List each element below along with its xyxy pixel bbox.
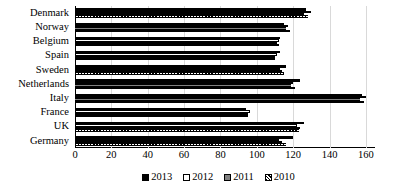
category-label: Netherlands [0, 77, 72, 91]
bar [75, 115, 248, 117]
bar-group [75, 120, 375, 134]
legend-label: 2012 [192, 172, 213, 183]
category-label: Spain [0, 49, 72, 63]
bar [75, 72, 284, 74]
x-tick-label: 40 [142, 150, 153, 161]
legend-swatch-icon [183, 174, 190, 181]
bar [75, 30, 290, 32]
category-label: France [0, 105, 72, 119]
x-tick-label: 80 [215, 150, 226, 161]
x-tick-label: 100 [249, 150, 265, 161]
category-label: Germany [0, 134, 72, 148]
legend-swatch-icon [142, 174, 149, 181]
legend-item[interactable]: 2012 [183, 172, 213, 183]
bar-groups [75, 6, 375, 148]
bar [75, 87, 295, 89]
bar-group [75, 77, 375, 91]
bar-group [75, 34, 375, 48]
bar-group [75, 91, 375, 105]
bar [75, 129, 299, 131]
x-tick-label: 120 [285, 150, 301, 161]
plot-area [75, 6, 375, 148]
legend-item[interactable]: 2011 [224, 172, 254, 183]
legend-item[interactable]: 2013 [142, 172, 172, 183]
legend-label: 2011 [233, 172, 254, 183]
bar-group [75, 63, 375, 77]
legend-label: 2010 [274, 172, 295, 183]
legend-item[interactable]: 2010 [265, 172, 295, 183]
bar [75, 44, 279, 46]
category-label: Belgium [0, 34, 72, 48]
category-label: Italy [0, 91, 72, 105]
bar-group [75, 6, 375, 20]
category-label: Denmark [0, 6, 72, 20]
y-axis-category-labels: DenmarkNorwayBelgiumSpainSwedenNetherlan… [0, 6, 72, 148]
bar-group [75, 105, 375, 119]
legend-label: 2013 [151, 172, 172, 183]
category-label: UK [0, 120, 72, 134]
x-tick-label: 160 [358, 150, 374, 161]
category-label: Sweden [0, 63, 72, 77]
legend-swatch-icon [265, 174, 272, 181]
legend-swatch-icon [224, 174, 231, 181]
bar [75, 143, 286, 145]
x-tick-label: 20 [106, 150, 117, 161]
bar [75, 101, 364, 103]
bar-group [75, 20, 375, 34]
category-label: Norway [0, 20, 72, 34]
x-tick-label: 140 [322, 150, 338, 161]
bar-group [75, 49, 375, 63]
x-tick-label: 0 [72, 150, 77, 161]
x-tick-label: 60 [179, 150, 190, 161]
bar-group [75, 134, 375, 148]
bar-chart: DenmarkNorwayBelgiumSpainSwedenNetherlan… [0, 0, 405, 193]
bar [75, 58, 275, 60]
bar [75, 15, 308, 17]
chart-legend: 2013201220112010 [0, 172, 405, 183]
x-axis-tick-labels: 020406080100120140160 [75, 150, 375, 164]
